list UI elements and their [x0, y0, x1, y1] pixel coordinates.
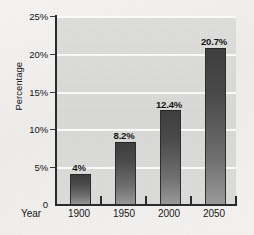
y-tick-label-25: 25%: [29, 11, 48, 22]
x-tick-2: [145, 196, 147, 205]
chart-title-cropped: [0, 0, 254, 7]
bar-2050: [205, 48, 226, 206]
bar-value-1950: 8.2%: [101, 130, 147, 141]
bar-1900: [70, 174, 91, 205]
y-tick-label-20: 20%: [29, 49, 48, 60]
y-tick-5: [50, 167, 55, 168]
chart-screenshot: 25% 20% 15% 10% 5% 0 Percentage Year 190…: [0, 0, 254, 235]
bar-1950: [115, 142, 136, 205]
x-tick-label-2000: 2000: [146, 208, 192, 219]
x-tick-label-1950: 1950: [101, 208, 147, 219]
bar-value-1900: 4%: [56, 162, 102, 173]
y-tick-label-5: 5%: [34, 162, 48, 173]
x-tick-3: [190, 196, 192, 205]
bar-value-2050: 20.7%: [191, 36, 237, 47]
y-tick-20: [50, 54, 55, 55]
y-axis-title-text: Percentage: [13, 62, 24, 111]
x-tick-label-1900: 1900: [56, 208, 102, 219]
x-tick-label-2050: 2050: [191, 208, 237, 219]
x-tick-1: [100, 196, 102, 205]
y-tick-label-10: 10%: [29, 124, 48, 135]
bar-2000: [160, 110, 181, 205]
x-tick-4: [235, 196, 237, 205]
x-tick-0: [55, 196, 57, 205]
x-axis-title: Year: [8, 208, 54, 219]
bar-value-2000: 12.4%: [146, 99, 192, 110]
y-tick-15: [50, 92, 55, 93]
y-axis-line: [55, 15, 57, 206]
y-tick-10: [50, 129, 55, 130]
y-tick-25: [50, 16, 55, 17]
gridline-25: [56, 16, 236, 18]
y-axis-title: Percentage: [13, 71, 24, 85]
y-tick-label-15: 15%: [29, 87, 48, 98]
